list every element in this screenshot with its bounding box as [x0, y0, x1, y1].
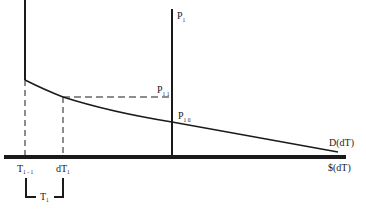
label-p1: P1 — [177, 10, 186, 23]
label-t1: T1 — [40, 191, 49, 203]
t1-bracket-right — [54, 178, 63, 197]
label-dt1: dT1 — [56, 163, 70, 175]
diagram-canvas: P1 P1 1 P1 0 D(dT) $(dT) T1 - 1 dT1 T1 — [0, 0, 366, 214]
label-demand-curve: D(dT) — [329, 137, 354, 149]
label-p10: P1 0 — [178, 110, 191, 123]
label-t-prev: T1 - 1 — [17, 163, 33, 175]
t1-bracket-left — [26, 178, 36, 197]
label-x-axis: $(dT) — [328, 162, 351, 174]
label-p11: P1 1 — [157, 84, 170, 97]
